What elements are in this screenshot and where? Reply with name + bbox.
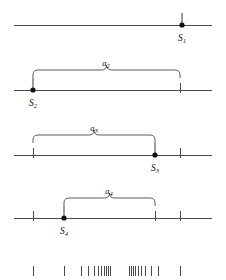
- row-1: S1: [14, 13, 212, 44]
- figure-container: S1a2S2a3S3a4S4: [0, 0, 226, 280]
- point-label: S1: [178, 33, 186, 44]
- point-marker-dot: [61, 215, 66, 220]
- brace-label: a4: [105, 186, 113, 197]
- row-4: a4S4: [14, 186, 212, 237]
- point-marker-dot: [30, 87, 35, 92]
- point-label: S4: [60, 226, 69, 237]
- point-marker-dot: [152, 152, 157, 157]
- number-line-figure: S1a2S2a3S3a4S4: [0, 0, 226, 280]
- brace-label: a2: [102, 58, 110, 69]
- row-3: a3S3: [14, 123, 212, 174]
- row-2: a2S2: [14, 58, 212, 109]
- point-label: S2: [29, 98, 38, 109]
- point-label: S3: [151, 163, 160, 174]
- point-marker-dot: [179, 22, 184, 27]
- limit-tick-strip: [33, 266, 180, 276]
- brace-label: a3: [90, 123, 98, 134]
